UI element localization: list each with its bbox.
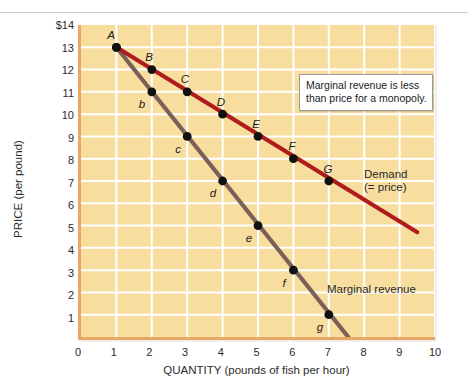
y-tick: 6 xyxy=(40,199,74,211)
point-label-G: G xyxy=(324,163,333,175)
point-label-d: d xyxy=(210,187,216,199)
y-tick: 1 xyxy=(40,312,74,324)
x-tick: 1 xyxy=(99,346,129,358)
y-tick: 13 xyxy=(40,42,74,54)
x-tick: 10 xyxy=(420,346,450,358)
x-tick: 2 xyxy=(134,346,164,358)
x-tick: 4 xyxy=(206,346,236,358)
point-label-E: E xyxy=(252,118,260,130)
y-tick: 9 xyxy=(40,132,74,144)
x-axis-ticks: 0 1 2 3 4 5 6 7 8 9 10 xyxy=(78,346,435,364)
y-tick: 10 xyxy=(40,109,74,121)
y-axis-label: PRICE (per pound) xyxy=(12,109,24,269)
point-label-e: e xyxy=(246,232,252,244)
x-tick: 6 xyxy=(277,346,307,358)
callout-box: Marginal revenue is less than price for … xyxy=(299,74,433,111)
demand-label-line1: Demand xyxy=(364,168,407,181)
x-tick: 0 xyxy=(63,346,93,358)
y-tick: 3 xyxy=(40,267,74,279)
plot-area: A B C D E F G b c d e f g Demand (= pric… xyxy=(78,25,435,340)
point-label-A: A xyxy=(107,29,115,41)
x-tick: 8 xyxy=(349,346,379,358)
x-axis-label: QUANTITY (pounds of fish per hour) xyxy=(78,364,435,376)
x-tick: 7 xyxy=(313,346,343,358)
top-divider xyxy=(0,12,468,13)
point-label-B: B xyxy=(145,51,153,63)
point-label-g: g xyxy=(317,321,323,333)
demand-curve-label: Demand (= price) xyxy=(364,168,407,194)
point-label-D: D xyxy=(217,96,225,108)
y-tick: 8 xyxy=(40,154,74,166)
point-label-c: c xyxy=(175,143,181,155)
point-label-f: f xyxy=(282,277,285,289)
x-tick: 9 xyxy=(384,346,414,358)
x-tick: 5 xyxy=(242,346,272,358)
marginal-revenue-curve-label: Marginal revenue xyxy=(327,283,416,296)
y-tick: 7 xyxy=(40,177,74,189)
y-tick: 2 xyxy=(40,289,74,301)
y-tick: 11 xyxy=(40,87,74,99)
y-tick: 12 xyxy=(40,64,74,76)
point-label-F: F xyxy=(288,140,295,152)
point-label-C: C xyxy=(181,73,189,85)
figure: $14 13 12 11 10 9 8 7 6 5 4 3 2 1 0 1 2 … xyxy=(0,0,468,390)
y-tick: 5 xyxy=(40,222,74,234)
callout-line1: Marginal revenue is less xyxy=(306,79,427,92)
demand-label-line2: (= price) xyxy=(364,181,407,194)
y-tick: 4 xyxy=(40,244,74,256)
y-axis-ticks: $14 13 12 11 10 9 8 7 6 5 4 3 2 1 xyxy=(36,25,74,340)
y-tick: $14 xyxy=(40,19,74,31)
x-tick: 3 xyxy=(170,346,200,358)
callout-line2: than price for a monopoly. xyxy=(306,92,427,105)
point-label-b: b xyxy=(139,98,145,110)
